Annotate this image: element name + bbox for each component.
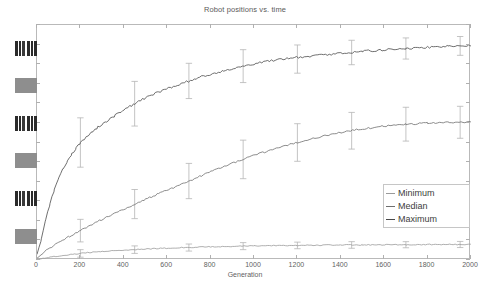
x-tick-200: [79, 255, 80, 259]
x-tick-top-600: [166, 24, 167, 28]
y-tick-right-0: [466, 259, 470, 260]
y-tick-right-4: [466, 181, 470, 182]
y-tick-label-1: [15, 78, 37, 93]
x-tick-1600: [383, 255, 384, 259]
x-tick-top-1000: [253, 24, 254, 28]
errorbar-group-maximum: [77, 37, 463, 168]
x-tick-label-600: 600: [146, 261, 186, 268]
x-axis-title: Generation: [0, 271, 490, 278]
legend-item-maximum[interactable]: Maximum: [386, 213, 469, 226]
y-tick-label-3: [15, 153, 37, 168]
y-tick-right-10: [466, 63, 470, 64]
y-tick-right-11: [466, 44, 470, 45]
y-tick-left-6: [36, 142, 40, 143]
y-tick-right-8: [466, 102, 470, 103]
y-tick-left-0: [36, 259, 40, 260]
x-tick-2000: [470, 255, 471, 259]
x-tick-top-200: [79, 24, 80, 28]
y-tick-left-10: [36, 63, 40, 64]
x-tick-label-400: 400: [103, 261, 143, 268]
legend-line-icon: [386, 206, 395, 207]
x-tick-label-1800: 1800: [407, 261, 447, 268]
legend-label: Maximum: [398, 213, 437, 226]
x-tick-label-800: 800: [190, 261, 230, 268]
y-tick-right-1: [466, 239, 470, 240]
y-tick-right-12: [466, 24, 470, 25]
x-tick-top-1600: [383, 24, 384, 28]
y-tick-label-5: [15, 229, 37, 244]
x-tick-400: [123, 255, 124, 259]
chart-legend[interactable]: MinimumMedianMaximum: [383, 184, 470, 228]
legend-item-minimum[interactable]: Minimum: [386, 187, 469, 200]
x-tick-1000: [253, 255, 254, 259]
x-tick-top-800: [210, 24, 211, 28]
x-tick-label-2000: 2000: [450, 261, 490, 268]
x-tick-top-1400: [340, 24, 341, 28]
x-tick-600: [166, 255, 167, 259]
x-tick-label-0: 0: [16, 261, 56, 268]
y-tick-left-4: [36, 181, 40, 182]
y-tick-right-9: [466, 83, 470, 84]
x-tick-label-1400: 1400: [320, 261, 360, 268]
legend-label: Median: [398, 200, 428, 213]
x-tick-label-200: 200: [59, 261, 99, 268]
x-tick-top-400: [123, 24, 124, 28]
y-tick-label-0: [15, 41, 37, 56]
legend-line-icon: [386, 193, 395, 194]
legend-label: Minimum: [398, 187, 435, 200]
x-tick-top-2000: [470, 24, 471, 28]
y-tick-right-6: [466, 142, 470, 143]
y-tick-label-2: [15, 116, 37, 131]
x-tick-1800: [427, 255, 428, 259]
chart-figure: Robot positions vs. time 020040060080010…: [0, 0, 490, 289]
x-tick-top-1800: [427, 24, 428, 28]
y-tick-label-4: [15, 191, 37, 206]
y-tick-right-5: [466, 161, 470, 162]
x-tick-1400: [340, 255, 341, 259]
legend-item-median[interactable]: Median: [386, 200, 469, 213]
x-tick-label-1200: 1200: [276, 261, 316, 268]
y-tick-left-8: [36, 102, 40, 103]
legend-line-icon: [386, 219, 395, 220]
chart-title: Robot positions vs. time: [0, 5, 490, 14]
errorbar-group-minimum: [77, 241, 463, 257]
y-tick-right-7: [466, 122, 470, 123]
x-tick-label-1000: 1000: [233, 261, 273, 268]
x-tick-800: [210, 255, 211, 259]
x-tick-1200: [296, 255, 297, 259]
x-tick-label-1600: 1600: [363, 261, 403, 268]
x-tick-top-1200: [296, 24, 297, 28]
y-tick-left-2: [36, 220, 40, 221]
y-tick-left-12: [36, 24, 40, 25]
